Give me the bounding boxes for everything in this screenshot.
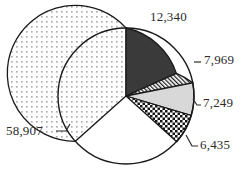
pie-label-left: 58,907 bbox=[6, 124, 43, 137]
pie-chart-canvas bbox=[0, 0, 244, 184]
pie-slice-58907 bbox=[7, 5, 126, 141]
pie-label-top: 12,340 bbox=[150, 10, 187, 23]
pie-label-right: 7,249 bbox=[203, 96, 233, 109]
leader-line-6435 bbox=[186, 135, 198, 146]
pie-label-upper-right: 7,969 bbox=[204, 53, 234, 66]
pie-chart-figure: 12,340 7,969 7,249 6,435 58,907 bbox=[0, 0, 244, 184]
pie-label-lower-right: 6,435 bbox=[200, 138, 230, 151]
